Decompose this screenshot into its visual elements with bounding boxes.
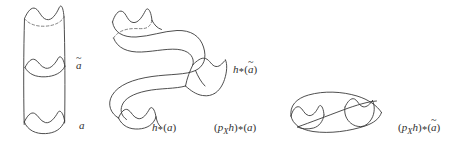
s-tube-right-outer-contour [196,71,206,87]
s-tube-inner-contour [114,38,194,65]
collapsed-tube-fold-line [298,101,377,127]
label-px-h-star-a: (pXh)*(a) [214,122,256,135]
s-tube-inner-lower-contour [121,86,185,120]
label-h-star-a-close: ) [172,121,176,133]
cylinder-bottom-rim-top [24,111,64,123]
s-tube-top-lip-front [113,9,153,23]
s-tube-cross-section-bottom-wave [186,86,215,96]
s-tube-top-lip-right-connector [152,21,162,30]
label-px-h-star-a-tilde: (pXh)*(~a) [398,122,440,135]
label-a: a [79,120,85,131]
collapsed-tube-cross-section-top [345,99,373,107]
label-h-star-a-tilde: h*(~a) [233,64,257,77]
collapsed-tube-bottom-contour [291,113,382,133]
shape-cylinder [24,6,65,134]
cylinder-right-wall [64,17,65,123]
shape-collapsed-tube [291,92,382,132]
label-h-star-a-tilde-close: ) [253,63,257,75]
cylinder-left-wall [24,19,25,125]
label-h-star-a: h*(a) [152,122,176,135]
collapsed-tube-cross-section-left [345,107,362,127]
tilde-accent-icon: ~ [431,115,436,125]
cylinder-bottom-rim-bottom [24,121,64,134]
shape-s-tube [110,9,227,129]
label-a-tilde: ~a [76,60,82,71]
cylinder-cross-section-top [25,57,65,69]
tilde-accent-icon: ~ [248,57,253,67]
s-tube-cross-section-left [186,65,194,87]
label-px-h-star-a-close2: ) [253,121,257,133]
cylinder-top-rim-front [25,6,65,20]
label-h-star-a-fn: h [152,121,158,133]
figure-root: ~a a h*(~a) h*(a) (pXh)*(a) (pXh)*(~a) [0,0,474,150]
label-h-star-a-tilde-fn: h [233,63,239,75]
label-px-h-star-a-tilde-close2: ) [437,121,441,133]
label-a-base: a [79,119,85,131]
s-tube-cross-section-top-wave [193,58,226,66]
tilde-accent-icon: ~ [76,53,81,63]
collapsed-tube-left-lip-front [291,106,324,116]
